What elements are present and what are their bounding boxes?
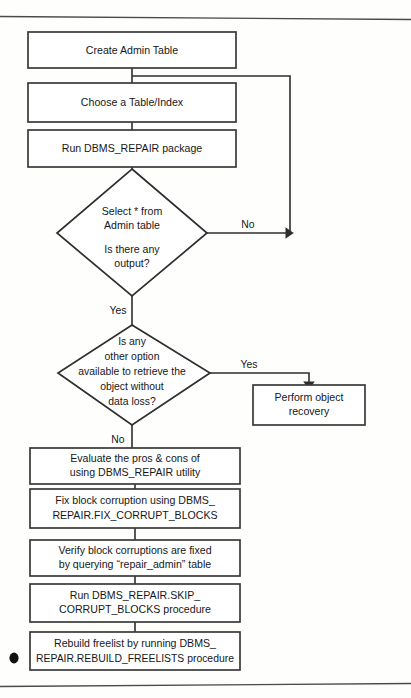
node-verify-block-corruptions-line1: Verify block corruptions are fixed [58, 544, 211, 556]
node-decision-other-option-line1: Is any [118, 336, 147, 347]
node-decision-select-output-line3: Is there any [104, 243, 160, 255]
horizontal-rule-bottom [0, 684, 411, 687]
node-fix-block-corruption-line2: REPAIR.FIX_CORRUPT_BLOCKS [52, 509, 217, 521]
node-run-dbms-repair-package-label: Run DBMS_REPAIR package [62, 142, 203, 154]
node-perform-object-recovery-line1: Perform object [275, 391, 344, 403]
node-decision-other-option-line3: available to retrieve the [78, 366, 186, 377]
node-fix-block-corruption-line1: Fix block corruption using DBMS_ [55, 494, 216, 506]
node-decision-other-option-line5: data loss? [108, 396, 156, 407]
node-verify-block-corruptions: Verify block corruptions are fixed by qu… [30, 540, 240, 576]
flowchart-page: Create Admin Table Choose a Table/Index … [0, 0, 411, 698]
node-rebuild-freelist-line1: Rebuild freelist by running DBMS_ [54, 637, 217, 649]
branch-label-decision1-yes: Yes [110, 305, 127, 316]
edge-decision2-yes [210, 373, 309, 385]
node-decision-select-output-line2: Admin table [104, 219, 160, 231]
node-rebuild-freelist: Rebuild freelist by running DBMS_ REPAIR… [30, 632, 240, 670]
node-create-admin-table-label: Create Admin Table [86, 44, 178, 56]
horizontal-rule-top [0, 17, 411, 20]
node-decision-other-option-line2: other option [105, 351, 160, 362]
node-fix-block-corruption: Fix block corruption using DBMS_ REPAIR.… [30, 489, 240, 528]
branch-label-decision1-no: No [241, 219, 255, 230]
node-run-skip-corrupt-blocks-line1: Run DBMS_REPAIR.SKIP_ [70, 589, 202, 601]
node-run-skip-corrupt-blocks: Run DBMS_REPAIR.SKIP_ CORRUPT_BLOCKS pro… [30, 584, 240, 622]
node-choose-table-index-label: Choose a Table/Index [81, 96, 184, 108]
node-decision-select-output-line1: Select * from [102, 205, 163, 217]
node-evaluate-pros-cons-line1: Evaluate the pros & cons of [70, 452, 200, 464]
node-decision-other-option: Is any other option available to retriev… [58, 325, 210, 425]
node-evaluate-pros-cons-line2: using DBMS_REPAIR utility [70, 466, 201, 478]
branch-label-decision2-yes: Yes [241, 359, 258, 370]
node-decision-select-output-line4: output? [114, 257, 149, 269]
branch-label-decision2-no: No [111, 434, 125, 445]
node-create-admin-table: Create Admin Table [28, 32, 236, 68]
node-run-skip-corrupt-blocks-line2: CORRUPT_BLOCKS procedure [59, 603, 211, 615]
page-bullet-mark [9, 653, 18, 664]
node-verify-block-corruptions-line2: by querying “repair_admin” table [59, 558, 212, 570]
node-perform-object-recovery-line2: recovery [289, 405, 330, 417]
flowchart-canvas: Create Admin Table Choose a Table/Index … [0, 0, 411, 698]
node-evaluate-pros-cons: Evaluate the pros & cons of using DBMS_R… [30, 448, 240, 484]
node-decision-select-output: Select * from Admin table Is there any o… [57, 169, 207, 296]
node-perform-object-recovery: Perform object recovery [253, 385, 365, 425]
node-choose-table-index: Choose a Table/Index [28, 83, 236, 122]
node-run-dbms-repair-package: Run DBMS_REPAIR package [28, 130, 236, 167]
node-decision-other-option-line4: object without [100, 381, 164, 392]
node-rebuild-freelist-line2: REPAIR.REBUILD_FREELISTS procedure [36, 653, 234, 664]
